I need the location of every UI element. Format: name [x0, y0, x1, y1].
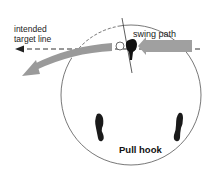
right-foot-icon [174, 113, 183, 141]
shot-name-label: Pull hook [119, 145, 162, 155]
ball-icon [116, 42, 124, 50]
swing-path-label: swing path [133, 29, 176, 39]
left-foot-icon [95, 114, 104, 142]
swing-path-arrow [138, 37, 192, 55]
ball-flight-arrow [34, 43, 112, 70]
target-line-label-line1: intended [14, 24, 51, 34]
target-line-label: intended target line [14, 24, 51, 44]
clubhead-icon [126, 39, 137, 60]
target-line-arrowhead-icon [15, 46, 24, 53]
target-line-label-line2: target line [14, 34, 51, 44]
